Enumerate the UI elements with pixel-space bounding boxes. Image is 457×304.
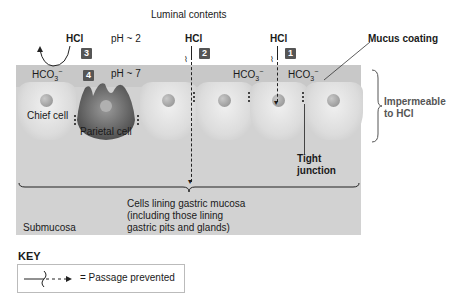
ph-mucus-label: pH ~ 7: [111, 68, 141, 79]
badge-4: 4: [83, 70, 94, 81]
tight-junction: [302, 92, 304, 104]
hcl-label-1: HCl: [270, 33, 287, 44]
nucleus: [40, 94, 53, 107]
tight-junction-pointer: [304, 104, 305, 154]
key-title: KEY: [18, 250, 41, 262]
key-box: = Passage prevented: [17, 264, 185, 293]
barrier-icon: ⌇: [184, 55, 188, 64]
barrier-icon: ⌇: [270, 55, 274, 64]
cells-lining-label-1: Cells lining gastric mucosa: [127, 198, 245, 209]
hcl-arrow-1: [277, 46, 278, 60]
mucus-coating-label: Mucus coating: [368, 33, 438, 44]
nucleus: [218, 94, 231, 107]
passage-prevented-symbol-icon: [22, 269, 78, 289]
impermeable-label-2: to HCl: [384, 108, 413, 119]
chief-cell-label: Chief cell: [27, 110, 68, 121]
brace-icon: [17, 181, 361, 195]
submucosa-label: Submucosa: [23, 222, 76, 233]
luminal-contents-label: Luminal contents: [151, 9, 227, 20]
impermeable-label-1: Impermeable: [384, 96, 446, 107]
epithelial-cell: [250, 82, 308, 140]
tight-junction: [74, 115, 76, 127]
key-description: = Passage prevented: [80, 272, 175, 283]
hco3-label: HCO3−: [32, 68, 62, 82]
badge-1: 1: [285, 48, 296, 59]
tight-junction-label-1: Tight: [297, 153, 321, 164]
badge-3: 3: [81, 48, 92, 59]
arrowhead-icon: ▾: [274, 98, 278, 107]
parietal-cell-label: Parietal cell: [80, 126, 132, 137]
tight-junction: [248, 92, 250, 104]
pointer-line: [322, 40, 372, 82]
hco3-label: HCO3−: [288, 68, 318, 82]
curved-arrow-icon: [35, 44, 75, 70]
tight-junction: [193, 92, 195, 104]
hcl-label-3: HCl: [66, 33, 83, 44]
badge-2: 2: [199, 48, 210, 59]
blocked-path-1: [277, 62, 278, 102]
cells-lining-label-3: gastric pits and glands): [127, 222, 230, 233]
tight-junction-label-2: junction: [297, 165, 336, 176]
cells-lining-label-2: (including those lining: [127, 210, 223, 221]
hco3-label: HCO3−: [233, 68, 263, 82]
tight-junction: [137, 115, 139, 127]
epithelial-cell: [305, 82, 363, 140]
brace-icon: [370, 68, 384, 144]
epithelial-cell: [196, 82, 254, 140]
hcl-arrow-2: [191, 46, 192, 60]
hcl-label-2: HCl: [185, 33, 202, 44]
epithelial-cell: [140, 82, 198, 140]
blocked-path-2: [191, 62, 192, 182]
nucleus: [327, 94, 340, 107]
nucleus: [162, 94, 175, 107]
ph-lumen-label: pH ~ 2: [111, 33, 141, 44]
